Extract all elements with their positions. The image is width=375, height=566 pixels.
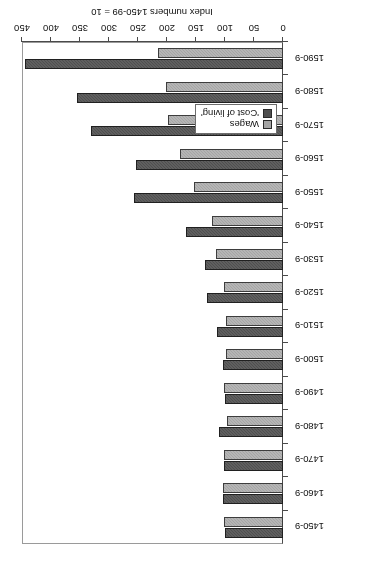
category-label: 1470-9 (295, 455, 324, 466)
category-tick (283, 175, 288, 176)
legend-label-cost-of-living: 'Cost of living' (201, 108, 259, 119)
value-tick (21, 37, 22, 42)
category-label: 1460-9 (295, 488, 324, 499)
value-tick (224, 37, 225, 42)
chart-canvas: 1450-91460-91470-91480-91490-91500-91510… (0, 0, 375, 566)
value-tick-label: 400 (43, 23, 59, 34)
category-tick (283, 376, 288, 377)
bar-cost-of-living (217, 327, 283, 337)
category-tick (283, 108, 288, 109)
bar-cost-of-living (205, 260, 283, 270)
chart-legend: Wages 'Cost of living' (195, 104, 277, 134)
axis-title: Index numbers 1450-99 = 10 (21, 7, 283, 18)
category-label: 1480-9 (295, 421, 324, 432)
value-tick-label: 0 (280, 23, 285, 34)
category-label: 1490-9 (295, 388, 324, 399)
category-label: 1520-9 (295, 288, 324, 299)
category-tick (283, 41, 288, 42)
category-tick (283, 443, 288, 444)
bar-wages (224, 517, 283, 527)
legend-swatch-wages-icon (263, 120, 272, 129)
bar-cost-of-living (136, 160, 283, 170)
bar-wages (226, 316, 283, 326)
bar-cost-of-living (219, 427, 283, 437)
value-tick-label: 100 (217, 23, 233, 34)
bar-cost-of-living (77, 93, 283, 103)
value-tick (50, 37, 51, 42)
value-tick (137, 37, 138, 42)
bar-wages (158, 48, 283, 58)
bar-wages (226, 349, 283, 359)
value-tick-label: 250 (130, 23, 146, 34)
value-tick-label: 450 (14, 23, 30, 34)
category-label: 1530-9 (295, 254, 324, 265)
bar-cost-of-living (225, 394, 283, 404)
value-tick-label: 50 (249, 23, 260, 34)
category-tick (283, 208, 288, 209)
category-tick (283, 242, 288, 243)
category-label: 1550-9 (295, 187, 324, 198)
value-axis-line (21, 41, 283, 42)
legend-item-wages: Wages (201, 119, 272, 130)
bar-wages (224, 283, 283, 293)
category-label: 1560-9 (295, 154, 324, 165)
category-tick (283, 476, 288, 477)
bar-cost-of-living (224, 461, 283, 471)
bar-cost-of-living (207, 294, 283, 304)
category-tick (283, 275, 288, 276)
bar-wages (166, 82, 283, 92)
bar-cost-of-living (25, 59, 283, 69)
category-label: 1510-9 (295, 321, 324, 332)
legend-item-cost-of-living: 'Cost of living' (201, 108, 272, 119)
value-tick-label: 200 (159, 23, 175, 34)
rotated-chart-figure: 1450-91460-91470-91480-91490-91500-91510… (0, 0, 375, 566)
bar-wages (227, 416, 283, 426)
legend-swatch-cost-of-living-icon (263, 109, 272, 118)
category-label: 1580-9 (295, 87, 324, 98)
bar-cost-of-living (223, 360, 283, 370)
category-tick (283, 409, 288, 410)
bar-cost-of-living (223, 494, 283, 504)
category-tick (283, 342, 288, 343)
value-tick (108, 37, 109, 42)
value-tick (79, 37, 80, 42)
bar-wages (224, 450, 283, 460)
category-axis-labels: 1450-91460-91470-91480-91490-91500-91510… (291, 42, 369, 544)
category-tick (283, 74, 288, 75)
bar-wages (224, 383, 283, 393)
bar-cost-of-living (225, 528, 283, 538)
value-tick-label: 300 (101, 23, 117, 34)
category-label: 1500-9 (295, 354, 324, 365)
value-tick-label: 150 (188, 23, 204, 34)
bar-cost-of-living (186, 227, 283, 237)
bar-wages (212, 216, 283, 226)
value-tick (166, 37, 167, 42)
category-label: 1540-9 (295, 221, 324, 232)
value-tick-label: 350 (72, 23, 88, 34)
bar-wages (223, 483, 283, 493)
category-label: 1590-9 (295, 53, 324, 64)
bar-wages (194, 182, 283, 192)
category-label: 1570-9 (295, 120, 324, 131)
bar-wages (216, 249, 283, 259)
value-tick (195, 37, 196, 42)
bar-cost-of-living (134, 193, 283, 203)
bar-wages (180, 149, 283, 159)
value-tick (253, 37, 254, 42)
category-tick (283, 141, 288, 142)
legend-label-wages: Wages (230, 119, 259, 130)
category-label: 1450-9 (295, 522, 324, 533)
category-axis (283, 42, 289, 544)
value-tick (282, 37, 283, 42)
category-tick (283, 510, 288, 511)
category-tick (283, 309, 288, 310)
